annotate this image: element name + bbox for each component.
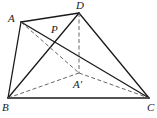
label-P: P (50, 23, 58, 35)
label-C: C (147, 101, 155, 113)
segment-DC (79, 13, 149, 98)
segment-BD (8, 13, 79, 98)
segment-AB (8, 22, 21, 98)
label-B: B (2, 101, 9, 113)
segment-AD (21, 13, 79, 22)
geometry-diagram: A D P A′ B C (0, 0, 157, 118)
label-D: D (75, 0, 84, 11)
label-A-prime: A′ (72, 78, 83, 90)
label-A: A (7, 12, 15, 24)
